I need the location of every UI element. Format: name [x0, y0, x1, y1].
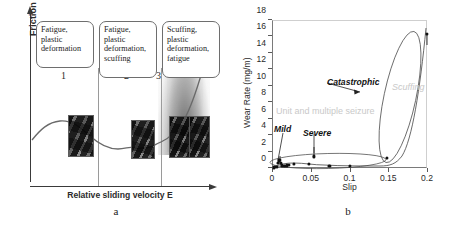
y-tick-4 — [268, 134, 272, 135]
annotation-unit-and-multiple-seizure: Unit and multiple seizure — [276, 106, 375, 116]
data-point — [425, 32, 428, 35]
info-box-zone-1: Fatigue, plastic deformation — [36, 21, 94, 68]
y-tick-label-10: 10 — [256, 71, 266, 81]
y-tick-label-12: 12 — [256, 54, 266, 64]
zone-divider-1-2 — [98, 68, 99, 186]
annotation-scuffing: Scuffing — [392, 82, 425, 92]
info-box-1-line-1: Fatigue, — [41, 25, 90, 35]
y-tick-label-6: 6 — [261, 104, 266, 114]
annotation-severe: Severe — [303, 128, 331, 138]
info-box-2-line-4: scuffing — [104, 54, 153, 64]
micrograph-zone-3-left — [169, 116, 190, 158]
y-tick-label-8: 8 — [261, 87, 266, 97]
y-tick-label-4: 4 — [261, 120, 266, 130]
panel-b-axes-frame — [272, 20, 427, 168]
info-box-2-line-1: Fatigue, — [104, 25, 153, 35]
annotation-mild: Mild — [274, 124, 291, 134]
info-box-1-line-3: deformation — [41, 44, 90, 54]
info-box-2-line-3: deformation, — [104, 44, 153, 54]
y-tick-label-0: 0 — [261, 153, 266, 163]
data-point — [275, 166, 278, 169]
micrograph-zone-2 — [131, 120, 155, 159]
panel-b-plot-area: Wear Rate (mg/m) Slip 0 2 4 6 8 10 12 14… — [272, 20, 427, 168]
panel-b-wear-rate-chart: Wear Rate (mg/m) Slip 0 2 4 6 8 10 12 14… — [232, 0, 464, 233]
x-tick-01 — [350, 168, 351, 172]
panel-a-friction-chart: Friction factor f Relative sliding veloc… — [0, 0, 232, 233]
info-box-3-line-1: Scuffing, — [167, 25, 216, 35]
y-tick-18 — [268, 19, 272, 20]
zone-number-1: 1 — [61, 70, 66, 81]
y-tick-label-16: 16 — [256, 21, 266, 31]
y-tick-6 — [268, 118, 272, 119]
panel-a-caption: a — [0, 205, 232, 217]
x-tick-015 — [388, 168, 389, 172]
x-tick-005 — [311, 168, 312, 172]
y-tick-label-18: 18 — [256, 5, 266, 15]
x-axis-arrow-icon — [209, 184, 217, 190]
micrograph-zone-1 — [68, 115, 94, 157]
x-tick-label-015: 0.15 — [380, 173, 397, 183]
panel-b-x-axis-label: Slip — [272, 182, 427, 192]
panel-b-y-axis-label: Wear Rate (mg/m) — [242, 57, 252, 128]
annotation-catastrophic: Catastrophic — [327, 77, 380, 87]
y-tick-16 — [268, 35, 272, 36]
info-box-1-line-2: plastic — [41, 35, 90, 45]
info-box-3-line-2: plastic — [167, 35, 216, 45]
panel-a-x-axis — [30, 186, 210, 187]
info-box-zone-2: Fatigue, plastic deformation, scuffing — [99, 21, 157, 78]
y-tick-2 — [268, 151, 272, 152]
y-tick-12 — [268, 68, 272, 69]
info-box-3-line-3: deformation, — [167, 44, 216, 54]
y-tick-8 — [268, 101, 272, 102]
micrograph-zone-3-right — [189, 116, 210, 158]
x-tick-label-02: 0.2 — [421, 173, 433, 183]
y-tick-label-14: 14 — [256, 38, 266, 48]
panel-b-caption: b — [232, 205, 464, 217]
x-tick-label-005: 0.05 — [302, 173, 319, 183]
info-box-zone-3: Scuffing, plastic deformation, fatigue — [162, 21, 220, 78]
panel-a-x-axis-label: Relative sliding velocity E — [30, 190, 210, 200]
x-tick-label-01: 0.1 — [344, 173, 356, 183]
figure-container: Friction factor f Relative sliding veloc… — [0, 0, 464, 233]
y-tick-14 — [268, 52, 272, 53]
y-tick-10 — [268, 85, 272, 86]
error-bar-0p200 — [427, 34, 428, 45]
x-tick-02 — [427, 168, 428, 172]
info-box-3-line-4: fatigue — [167, 54, 216, 64]
panel-a-y-axis — [30, 12, 31, 182]
y-tick-label-2: 2 — [261, 137, 266, 147]
info-box-2-line-2: plastic — [104, 35, 153, 45]
x-tick-label-0: 0 — [270, 173, 275, 183]
